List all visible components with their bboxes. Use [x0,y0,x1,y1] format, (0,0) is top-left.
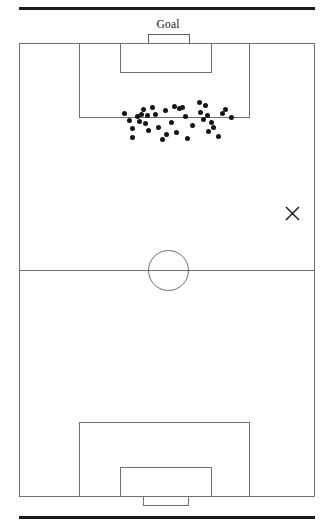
shot-dot [197,100,202,105]
shot-dot [206,129,211,134]
shot-dot [127,118,132,123]
shot-dot [216,134,221,139]
shot-dot [198,110,203,115]
shot-dot [185,136,190,141]
shot-dot [143,121,148,126]
goal-area-top [120,43,212,73]
shot-dot [163,108,168,113]
shot-dot [203,103,208,108]
top-rule [19,7,315,10]
reference-cross-icon [284,205,301,222]
shot-dot [139,112,144,117]
shot-dot [172,104,177,109]
shot-dot [130,135,135,140]
shot-dot [141,107,146,112]
goal-area-bottom [120,467,212,497]
shot-dot [223,107,228,112]
goal-label: Goal [118,18,218,30]
goal-mouth-bracket [148,34,190,43]
shot-dot [205,113,210,118]
shot-dot [211,125,216,130]
shot-dot [180,105,185,110]
shot-dot [174,130,179,135]
shot-dot [122,111,127,116]
shot-dot [137,119,142,124]
shot-dot [229,115,234,120]
shot-dot [145,113,150,118]
shot-dot [164,132,169,137]
shot-dot [153,112,158,117]
shot-dot [160,137,165,142]
shot-map-figure: Goal [0,0,334,531]
shot-dot [190,123,195,128]
center-circle [148,250,189,291]
shot-dot [209,120,214,125]
shot-dot [169,120,174,125]
shot-dot [130,126,135,131]
shot-dot [183,114,188,119]
bottom-rule [19,516,315,519]
shot-dot [146,128,151,133]
shot-dot [150,105,155,110]
shot-dot [156,125,161,130]
goal-net-bottom [143,497,189,506]
